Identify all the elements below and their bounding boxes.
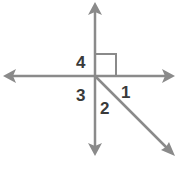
angle-label-1: 1 [121, 83, 130, 102]
angle-label-2: 2 [100, 99, 109, 118]
angle-label-3: 3 [76, 86, 85, 105]
angle-diagram: 4 3 2 1 [0, 0, 187, 181]
angle-label-4: 4 [76, 53, 86, 72]
right-angle-marker [95, 54, 116, 76]
